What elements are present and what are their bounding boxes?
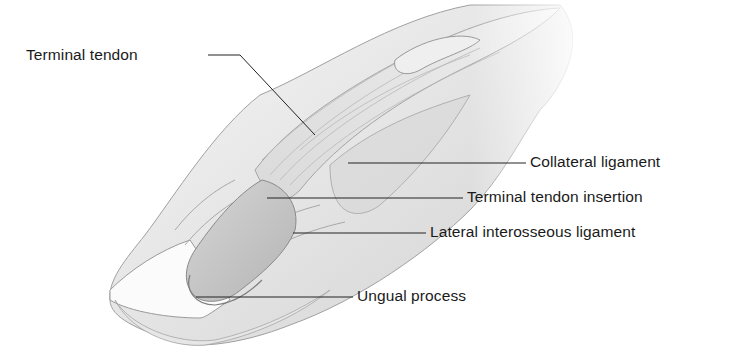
anatomy-figure: Terminal tendon Collateral ligament Term…: [0, 0, 741, 361]
label-lateral-interosseous-ligament: Lateral interosseous ligament: [430, 223, 635, 241]
label-collateral-ligament: Collateral ligament: [530, 153, 660, 171]
label-terminal-tendon-insertion: Terminal tendon insertion: [467, 188, 643, 206]
label-ungual-process: Ungual process: [357, 287, 466, 305]
label-terminal-tendon: Terminal tendon: [26, 46, 138, 64]
